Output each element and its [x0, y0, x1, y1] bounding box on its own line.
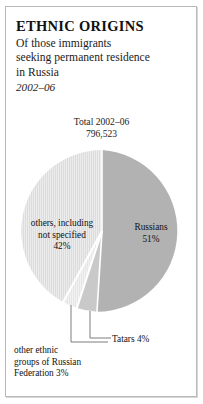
- leader-line-tatars: [90, 311, 111, 338]
- pie-label-russians: Russians 51%: [120, 222, 182, 245]
- callout-tatars: Tatars 4%: [112, 334, 196, 346]
- pie-label-others-value: 42%: [16, 241, 108, 253]
- pie-label-others: others, including not specified 42%: [16, 218, 108, 253]
- callout-other-ethnic-groups: other ethnic groups of Russian Federatio…: [14, 345, 114, 380]
- callout-other-ethnic-line-1: other ethnic: [14, 345, 114, 357]
- pie-label-others-line-2: not specified: [16, 230, 108, 242]
- pie-label-russians-name: Russians: [120, 222, 182, 234]
- infographic-card: ETHNIC ORIGINS Of those immigrants seeki…: [0, 0, 203, 404]
- callout-other-ethnic-line-2: groups of Russian: [14, 357, 114, 369]
- pie-label-russians-value: 51%: [120, 234, 182, 246]
- pie-label-others-line-1: others, including: [16, 218, 108, 230]
- callout-other-ethnic-line-3: Federation 3%: [14, 368, 114, 380]
- pie-chart: others, including not specified 42% Russ…: [0, 0, 203, 404]
